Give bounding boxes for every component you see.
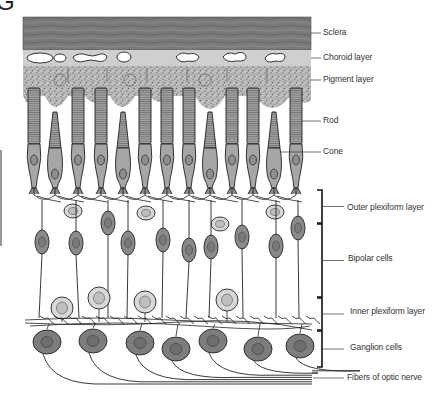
label-cone: Cone [323, 146, 343, 156]
label-optic-nerve: Fibers of optic nerve [347, 372, 422, 382]
horizontal-cell [64, 204, 82, 218]
amacrine-cell [216, 289, 238, 322]
amacrine-cell [88, 287, 110, 322]
rod-cell [246, 88, 260, 195]
horizontal-cell [266, 205, 284, 219]
ganglion-cell [162, 324, 190, 361]
page-edge-mark [0, 150, 2, 246]
bipolar-cell [291, 200, 305, 318]
label-pigment: Pigment layer [323, 74, 374, 84]
rod-cell [138, 88, 152, 195]
label-outer-plexiform: Outer plexiform layer [347, 202, 424, 212]
sclera-layer [23, 17, 311, 50]
rod-cell [289, 88, 303, 195]
ganglion-cell [286, 324, 314, 358]
outer-plexiform-network [34, 195, 302, 202]
rod-cell [94, 88, 108, 195]
rod-cell [182, 88, 196, 195]
ganglion-cell-layer [33, 324, 314, 361]
bracket-inner-plexiform [317, 298, 344, 330]
bracket-bipolar [317, 224, 344, 297]
label-rod: Rod [323, 115, 338, 125]
amacrine-cell [134, 291, 156, 322]
rod-cell [225, 88, 239, 195]
cone-cell [267, 112, 282, 195]
optic-nerve-fibers [43, 353, 360, 384]
bipolar-cell [156, 200, 170, 318]
ganglion-cell [126, 324, 154, 355]
bipolar-cell [35, 200, 49, 318]
bracket-outer-plexiform [317, 190, 344, 223]
label-bipolar: Bipolar cells [348, 253, 393, 263]
bipolar-cell [121, 200, 135, 318]
cone-cell [116, 112, 131, 195]
rod-cell [27, 88, 41, 195]
cone-cell [203, 112, 218, 195]
ganglion-cell [33, 324, 61, 354]
bipolar-cell-layer [35, 200, 305, 318]
ganglion-cell [79, 324, 107, 353]
ganglion-cell [199, 324, 227, 353]
rod-cell [160, 88, 174, 195]
horizontal-cell [211, 217, 229, 231]
label-sclera: Sclera [323, 27, 347, 37]
label-inner-plexiform: Inner plexiform layer [350, 306, 425, 316]
cone-cell [48, 112, 63, 195]
horizontal-cell [137, 206, 155, 220]
figure-letter: G [0, 0, 15, 16]
label-ganglion: Ganglion cells [350, 342, 402, 352]
rod-cell [71, 88, 85, 195]
inner-plexiform-network [25, 316, 320, 330]
bracket-ganglion [317, 331, 344, 367]
bipolar-cell [182, 200, 196, 318]
label-choroid: Choroid layer [323, 52, 372, 62]
photoreceptor-layer [27, 88, 303, 195]
ganglion-cell [244, 324, 272, 361]
